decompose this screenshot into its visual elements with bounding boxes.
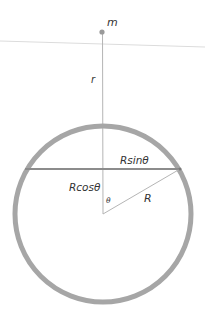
chord-end-point	[178, 167, 181, 170]
label-R: R	[144, 192, 152, 205]
label-rcos-theta: Rcosθ	[69, 181, 101, 193]
label-r: r	[91, 74, 96, 85]
label-mass: m	[107, 16, 118, 29]
label-rsin-theta: Rsinθ	[120, 154, 149, 166]
label-theta: θ	[106, 196, 111, 205]
radius-line-R	[103, 169, 180, 214]
diagram-canvas: m r Rsinθ Rcosθ θ R	[0, 0, 205, 323]
distance-line-r	[103, 32, 104, 214]
mass-point	[99, 29, 104, 34]
